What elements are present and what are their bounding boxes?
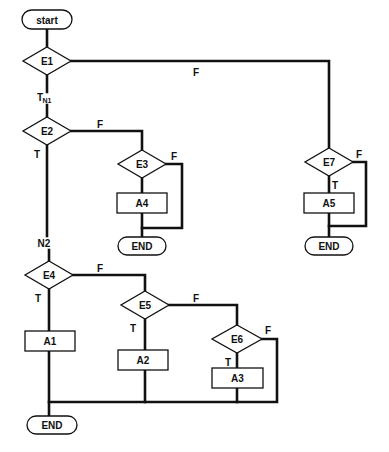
- decision-node-E7: E7: [305, 148, 353, 176]
- action-label: A5: [323, 198, 336, 209]
- edge-label: T: [225, 357, 231, 368]
- edge-label: F: [171, 151, 177, 162]
- decision-node-E1: E1: [23, 47, 71, 75]
- flowchart-edges: [47, 29, 366, 416]
- terminal-node-end2: END: [305, 237, 353, 255]
- flow-connector: [71, 61, 329, 148]
- flow-connector: [169, 305, 237, 325]
- flow-connector: [73, 275, 145, 291]
- terminal-node-end1: END: [118, 237, 166, 255]
- edge-label: F: [265, 325, 271, 336]
- decision-label: E1: [41, 56, 54, 67]
- action-node-A5: A5: [304, 193, 354, 213]
- terminal-node-end3: END: [27, 416, 77, 434]
- action-label: A4: [136, 198, 149, 209]
- flow-connector: [71, 131, 142, 150]
- edge-label: F: [97, 263, 103, 274]
- terminal-label: start: [36, 15, 58, 26]
- action-node-A2: A2: [118, 350, 168, 370]
- action-label: A3: [231, 373, 244, 384]
- edge-label: F: [97, 119, 103, 130]
- edge-label: F: [193, 67, 199, 78]
- decision-label: E5: [139, 300, 152, 311]
- edge-label: T: [130, 323, 136, 334]
- terminal-node-start: start: [22, 10, 72, 29]
- edge-label: T: [34, 149, 40, 160]
- terminal-label: END: [41, 420, 62, 431]
- decision-label: E2: [41, 126, 54, 137]
- edge-label: N2: [38, 238, 51, 249]
- edge-label: T: [332, 180, 338, 191]
- decision-node-E2: E2: [23, 117, 71, 145]
- flowchart-edge-labels: FTN1FTFN2FTFTFTFT: [34, 67, 362, 368]
- decision-node-E6: E6: [212, 325, 262, 353]
- edge-label: F: [356, 149, 362, 160]
- flowchart-canvas: startENDENDENDE1E2E3E4E5E6E7A1A2A3A4A5 F…: [0, 0, 389, 452]
- action-node-A1: A1: [25, 331, 75, 351]
- flowchart-nodes: startENDENDENDE1E2E3E4E5E6E7A1A2A3A4A5: [22, 10, 354, 434]
- edge-label: T: [35, 293, 41, 304]
- terminal-label: END: [131, 241, 152, 252]
- edge-label: F: [193, 293, 199, 304]
- action-label: A2: [137, 355, 150, 366]
- action-label: A1: [44, 336, 57, 347]
- decision-node-E5: E5: [121, 291, 169, 319]
- decision-label: E6: [231, 334, 244, 345]
- decision-node-E4: E4: [25, 261, 73, 289]
- action-node-A4: A4: [117, 193, 167, 213]
- decision-label: E7: [323, 157, 336, 168]
- edge-label: N1: [43, 97, 52, 104]
- action-node-A3: A3: [212, 368, 263, 388]
- decision-node-E3: E3: [118, 150, 166, 178]
- decision-label: E3: [136, 159, 149, 170]
- decision-label: E4: [43, 270, 56, 281]
- terminal-label: END: [318, 241, 339, 252]
